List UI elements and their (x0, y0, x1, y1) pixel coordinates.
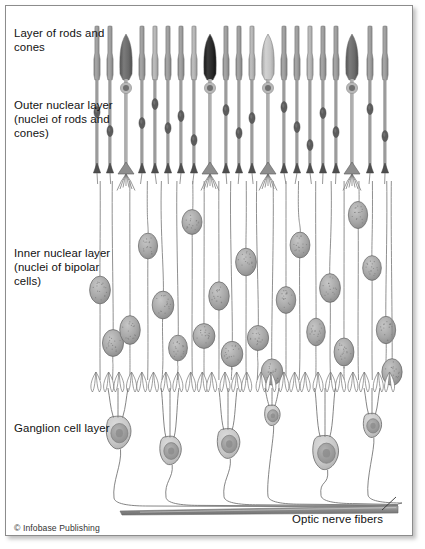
rod-outer-segment (152, 26, 158, 80)
rod-spherule (222, 163, 229, 173)
nucleus-stipple (390, 323, 391, 324)
nucleus-stipple (220, 286, 221, 287)
bipolar-terminal (295, 372, 300, 392)
cone-outer-segment (120, 34, 132, 80)
nucleus-stipple (158, 312, 159, 313)
nucleus-stipple (380, 326, 381, 327)
nucleus-stipple (333, 288, 334, 289)
nucleus-stipple (302, 243, 303, 244)
nucleus-stipple (346, 352, 347, 353)
nucleus-stipple (252, 333, 253, 334)
nucleus-stipple (146, 247, 147, 248)
nucleus-stipple (114, 340, 115, 341)
bipolar-terminal (91, 372, 96, 392)
cone-outer-segment (262, 34, 274, 80)
nucleus-stipple (229, 356, 230, 357)
nucleus-stipple (209, 336, 210, 337)
bipolar-terminal (348, 372, 353, 392)
nucleus-stipple (191, 227, 192, 228)
nucleus-stipple (129, 321, 130, 322)
nucleus-stipple (160, 311, 161, 312)
rod-spherule (319, 163, 326, 173)
nucleus-stipple (302, 247, 303, 248)
nucleus-stipple (372, 263, 373, 264)
nucleus-stipple (374, 273, 375, 274)
nucleus-stipple (189, 224, 190, 225)
nucleus-stipple (303, 252, 304, 253)
rod-terminal-fiber (310, 173, 311, 184)
nucleus-stipple (391, 367, 392, 368)
ganglion-nucleolus (323, 449, 330, 458)
nucleus-stipple (108, 343, 109, 344)
nucleus-stipple (238, 348, 239, 349)
nucleus-stipple (246, 252, 247, 253)
nucleus-stipple (150, 237, 151, 238)
nucleus-stipple (332, 277, 333, 278)
nucleus-stipple (321, 327, 322, 328)
rod-nucleus-highlight (179, 112, 181, 116)
bipolar-terminal (173, 372, 178, 392)
nucleus-stipple (275, 371, 276, 372)
rod-nucleus-highlight (334, 128, 336, 132)
bipolar-terminal (225, 372, 230, 392)
nucleus-stipple (132, 323, 133, 324)
nucleus-stipple (318, 334, 319, 335)
cone-nucleus (349, 85, 355, 91)
nucleus-stipple (250, 257, 251, 258)
nucleus-stipple (393, 375, 394, 376)
rod-terminal-fiber (335, 173, 336, 184)
bipolar-fiber (272, 181, 274, 384)
ganglion-axon (368, 438, 402, 504)
nucleus-stipple (97, 291, 98, 292)
nucleus-stipple (211, 299, 212, 300)
rod-outer-segment (294, 26, 300, 80)
rod-terminal-fiber (180, 173, 181, 184)
rod-outer-segment (367, 26, 373, 80)
nucleus-stipple (151, 253, 152, 254)
nucleus-stipple (359, 212, 360, 213)
nucleus-stipple (249, 263, 250, 264)
nucleus-stipple (370, 261, 371, 262)
nucleus-stipple (385, 368, 386, 369)
rod-spherule (248, 163, 255, 173)
bipolar-terminal (373, 372, 378, 392)
nucleus-stipple (343, 352, 344, 353)
bipolar-fiber (161, 181, 163, 380)
nucleus-stipple (128, 323, 129, 324)
bipolar-terminal (148, 372, 153, 392)
bipolar-terminal (305, 372, 310, 392)
cone-pedicle (118, 162, 134, 174)
nucleus-stipple (367, 264, 368, 265)
nucleus-stipple (341, 345, 342, 346)
ganglion-axon (321, 470, 398, 505)
nucleus-stipple (183, 351, 184, 352)
rod-spherule (366, 163, 373, 173)
nucleus-stipple (300, 236, 301, 237)
nucleus-stipple (241, 264, 242, 265)
nucleus-stipple (355, 207, 356, 208)
nucleus-stipple (163, 295, 164, 296)
bipolar-terminal (207, 372, 212, 392)
rod-spherule (332, 163, 339, 173)
nucleus-stipple (336, 289, 337, 290)
nucleus-stipple (371, 266, 372, 267)
nucleus-stipple (166, 301, 167, 302)
nucleus-stipple (285, 293, 286, 294)
nucleus-stipple (242, 254, 243, 255)
nucleus-stipple (369, 273, 370, 274)
rod-outer-segment (191, 26, 197, 80)
nucleus-stipple (195, 229, 196, 230)
rod-outer-segment (382, 26, 388, 80)
nucleus-stipple (213, 296, 214, 297)
nucleus-stipple (196, 220, 197, 221)
cone-outer-segment (346, 34, 358, 80)
nucleus-stipple (313, 334, 314, 335)
nucleus-stipple (356, 218, 357, 219)
nucleus-stipple (384, 334, 385, 335)
nucleus-stipple (249, 253, 250, 254)
nucleus-stipple (233, 355, 234, 356)
nucleus-stipple (228, 350, 229, 351)
bipolar-terminal (186, 372, 191, 392)
nucleus-stipple (127, 338, 128, 339)
nucleus-stipple (256, 333, 257, 334)
